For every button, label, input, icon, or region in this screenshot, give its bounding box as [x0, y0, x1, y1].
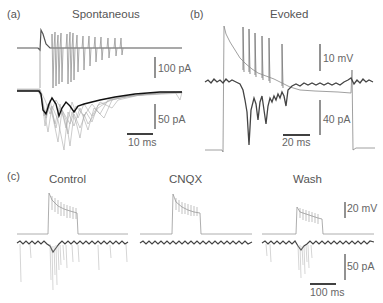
panel-a-traces	[17, 30, 182, 150]
figure-traces	[0, 0, 383, 303]
wash-traces	[262, 207, 374, 278]
control-traces	[17, 193, 128, 290]
cnqx-traces	[140, 194, 252, 244]
panel-c-traces	[17, 193, 374, 290]
panel-b-traces	[205, 26, 375, 152]
